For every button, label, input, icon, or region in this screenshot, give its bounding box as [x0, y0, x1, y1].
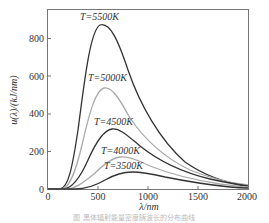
label-3500k: T=3500K	[104, 160, 144, 171]
label-5500k: T=5500K	[80, 11, 120, 22]
y-tick-400: 400	[29, 108, 44, 119]
x-tick-1500: 1500	[188, 191, 208, 202]
y-tick-600: 600	[29, 71, 44, 82]
figure-caption: 图 黑体辐射能量密度随波长的分布曲线	[73, 213, 194, 222]
label-5000k: T=5000K	[88, 72, 128, 83]
y-tick-800: 800	[29, 33, 44, 44]
x-tick-0: 0	[46, 191, 51, 202]
label-4000k: T=4000K	[101, 145, 141, 156]
y-tick-0: 0	[39, 184, 44, 195]
x-tick-2000: 2000	[237, 191, 257, 202]
label-4500k: T=4500K	[94, 116, 134, 127]
y-axis-title: u(λ)/(kJ/nm)	[8, 75, 20, 125]
curves	[48, 25, 248, 189]
y-tick-200: 200	[29, 146, 44, 157]
x-axis-title: λ/nm	[138, 201, 158, 212]
x-tick-500: 500	[91, 191, 106, 202]
y-axis: 800 600 400 200 0 u(λ)/(kJ/nm)	[8, 33, 51, 195]
blackbody-chart: 800 600 400 200 0 u(λ)/(kJ/nm) 0 500 100…	[0, 0, 269, 223]
